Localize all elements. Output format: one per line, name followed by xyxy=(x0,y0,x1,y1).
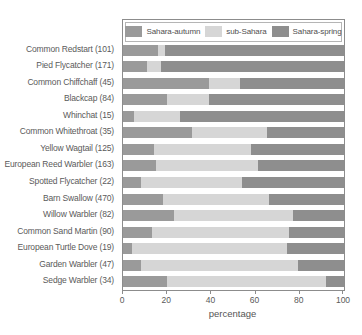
bars-container xyxy=(123,42,344,290)
bar-row xyxy=(123,276,344,287)
bar-row xyxy=(123,144,344,155)
bar-segment xyxy=(152,227,289,238)
bar-segment xyxy=(123,78,209,89)
bar-segment xyxy=(326,276,344,287)
x-axis-title: percentage xyxy=(122,308,343,319)
bar-row xyxy=(123,210,344,221)
y-axis-label: Pied Flycatcher (171) xyxy=(0,60,118,71)
bar-segment xyxy=(154,144,251,155)
bar-segment xyxy=(123,61,147,72)
legend-swatch-icon xyxy=(272,26,289,37)
y-axis-label: Spotted Flycatcher (22) xyxy=(0,176,118,187)
x-axis-tick-label: 80 xyxy=(294,295,303,305)
x-axis-tick xyxy=(166,290,167,294)
legend-label: sub-Sahara xyxy=(226,27,266,36)
x-axis-tick-label: 20 xyxy=(161,295,170,305)
x-axis-tick-label: 100 xyxy=(336,295,350,305)
bar-segment xyxy=(298,260,344,271)
y-axis-label: Yellow Wagtail (125) xyxy=(0,143,118,154)
bar-row xyxy=(123,243,344,254)
chart-figure: Sahara-autumnsub-SaharaSahara-spring Com… xyxy=(0,0,362,335)
bar-segment xyxy=(123,276,167,287)
y-axis-label: Common Chiffchaff (45) xyxy=(0,77,118,88)
bar-segment xyxy=(123,194,163,205)
bar-segment xyxy=(209,78,240,89)
y-axis-label: Common Whitethroat (35) xyxy=(0,126,118,137)
bar-segment xyxy=(163,194,269,205)
legend-swatch-icon xyxy=(205,26,222,37)
bar-segment xyxy=(123,227,152,238)
x-axis-tick xyxy=(122,290,123,294)
bar-segment xyxy=(267,127,344,138)
bar-row xyxy=(123,94,344,105)
bar-row xyxy=(123,260,344,271)
bar-segment xyxy=(240,78,344,89)
legend-entry: sub-Sahara xyxy=(205,26,266,37)
bar-segment xyxy=(123,144,154,155)
bar-segment xyxy=(141,177,243,188)
bar-segment xyxy=(134,111,180,122)
y-axis-label: Willow Warbler (82) xyxy=(0,209,118,220)
x-axis-tick xyxy=(342,290,343,294)
bar-segment xyxy=(141,260,298,271)
bar-row xyxy=(123,127,344,138)
chart-legend: Sahara-autumnsub-SaharaSahara-spring xyxy=(123,20,344,42)
bar-row xyxy=(123,45,344,56)
legend-label: Sahara-autumn xyxy=(146,27,200,36)
bar-segment xyxy=(180,111,344,122)
bar-segment xyxy=(123,177,141,188)
y-axis-label: Common Redstart (101) xyxy=(0,44,118,55)
bar-row xyxy=(123,194,344,205)
x-axis-tick-label: 0 xyxy=(120,295,125,305)
bar-segment xyxy=(158,45,165,56)
y-axis-label: Common Sand Martin (90) xyxy=(0,226,118,237)
bar-segment xyxy=(258,160,344,171)
bar-row xyxy=(123,78,344,89)
bar-segment xyxy=(293,210,344,221)
y-axis-labels: Common Redstart (101)Pied Flycatcher (17… xyxy=(0,41,118,289)
bar-segment xyxy=(242,177,344,188)
x-axis-tick-label: 40 xyxy=(206,295,215,305)
y-axis-label: Sedge Warbler (34) xyxy=(0,275,118,286)
bar-segment xyxy=(123,160,156,171)
bar-segment xyxy=(123,111,134,122)
y-axis-label: Whinchat (15) xyxy=(0,110,118,121)
bar-segment xyxy=(167,94,209,105)
y-axis-label: Barn Swallow (470) xyxy=(0,193,118,204)
legend-entry: Sahara-spring xyxy=(272,26,342,37)
y-axis-label: Blackcap (84) xyxy=(0,93,118,104)
x-axis-tick xyxy=(255,290,256,294)
bar-row xyxy=(123,61,344,72)
bar-segment xyxy=(165,45,344,56)
y-axis-label: Garden Warbler (47) xyxy=(0,259,118,270)
x-axis-tick xyxy=(299,290,300,294)
bar-segment xyxy=(147,61,160,72)
bar-segment xyxy=(123,243,132,254)
x-axis: percentage 020406080100 xyxy=(122,290,343,330)
legend-label: Sahara-spring xyxy=(293,27,342,36)
bar-segment xyxy=(161,61,344,72)
bar-segment xyxy=(167,276,326,287)
bar-segment xyxy=(192,127,267,138)
bar-segment xyxy=(174,210,293,221)
bar-segment xyxy=(123,260,141,271)
bar-row xyxy=(123,160,344,171)
bar-row xyxy=(123,111,344,122)
bar-segment xyxy=(123,127,192,138)
plot-area: Sahara-autumnsub-SaharaSahara-spring xyxy=(122,19,345,291)
bar-segment xyxy=(123,45,158,56)
bar-segment xyxy=(123,94,167,105)
bar-segment xyxy=(123,210,174,221)
bar-segment xyxy=(209,94,344,105)
x-axis-tick-label: 60 xyxy=(250,295,259,305)
bar-segment xyxy=(289,227,344,238)
bar-row xyxy=(123,227,344,238)
bar-segment xyxy=(132,243,287,254)
bar-row xyxy=(123,177,344,188)
bar-segment xyxy=(287,243,344,254)
legend-entry: Sahara-autumn xyxy=(125,26,200,37)
bar-segment xyxy=(269,194,344,205)
x-axis-tick xyxy=(210,290,211,294)
bar-segment xyxy=(156,160,258,171)
y-axis-label: European Reed Warbler (163) xyxy=(0,159,118,170)
